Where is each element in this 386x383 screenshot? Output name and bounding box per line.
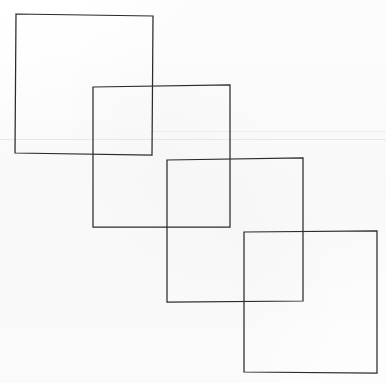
square-1 — [15, 14, 153, 155]
square-2 — [93, 85, 230, 227]
overlapping-squares-figure: Overlapping Squares Four outlined square… — [0, 0, 386, 383]
square-3 — [167, 158, 303, 302]
figure-canvas: Overlapping Squares Four outlined square… — [0, 0, 386, 383]
square-4 — [244, 231, 377, 373]
